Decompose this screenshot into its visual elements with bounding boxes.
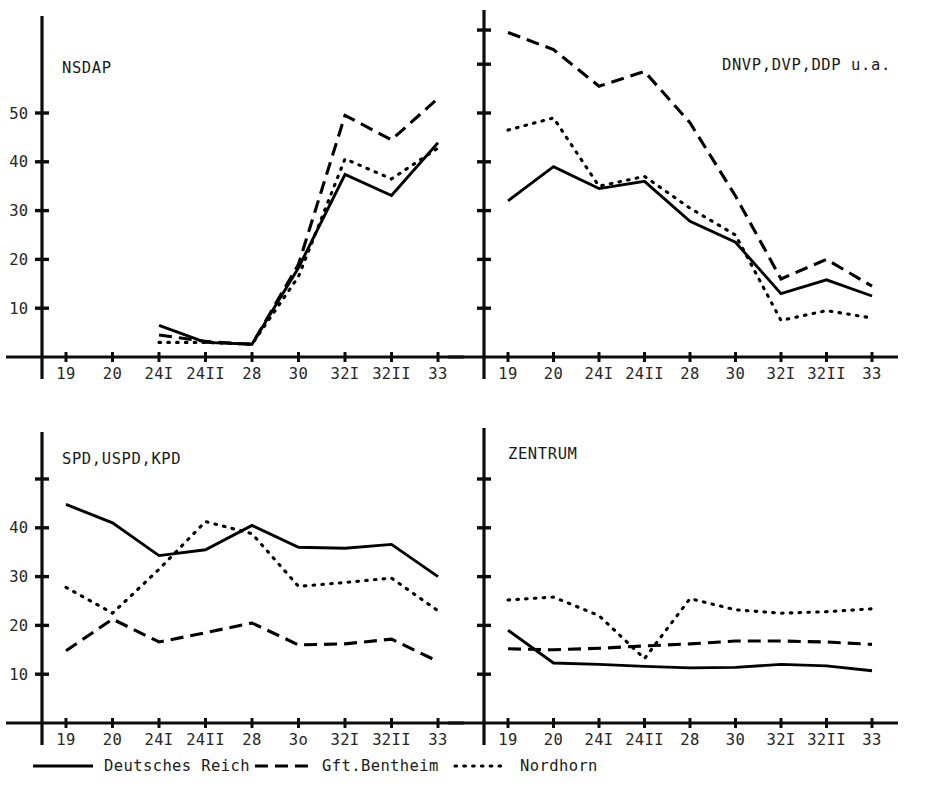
x-tick-label-top-left-0: 19 [56,365,75,383]
series-bottom-right-dashed [508,641,872,650]
legend-label-1: Deutsches Reich [104,757,250,775]
x-tick-label-top-left-1: 20 [103,365,122,383]
y-tick-label-top-left-3: 40 [9,153,28,171]
x-tick-label-top-left-3: 24II [186,365,225,383]
series-top-left-dotted [159,148,438,344]
x-tick-label-top-right-1: 20 [544,365,563,383]
y-tick-label-top-left-1: 20 [9,251,28,269]
panel-title-top-right: DNVP,DVP,DDP u.a. [722,56,891,74]
x-tick-label-bottom-left-4: 28 [242,731,261,749]
y-tick-label-top-left-2: 30 [9,202,28,220]
x-tick-label-bottom-left-0: 19 [56,731,75,749]
y-tick-label-bottom-left-2: 30 [9,568,28,586]
x-tick-label-top-left-4: 28 [242,365,261,383]
panel-title-top-left: NSDAP [62,59,112,77]
y-tick-label-bottom-left-0: 10 [9,666,28,684]
chart-canvas: 1020304050192024I24II283032I32II33NSDAP1… [0,0,925,797]
x-tick-label-top-right-7: 32II [807,365,846,383]
x-tick-label-bottom-right-4: 28 [680,731,699,749]
x-tick-label-bottom-right-5: 30 [726,731,745,749]
x-tick-label-bottom-left-2: 24I [145,731,174,749]
x-tick-label-top-left-7: 32II [372,365,411,383]
series-top-right-solid [508,167,872,296]
series-bottom-left-dotted [66,522,438,614]
x-tick-label-bottom-right-7: 32II [807,731,846,749]
y-tick-label-bottom-left-3: 40 [9,519,28,537]
x-tick-label-bottom-right-2: 24I [585,731,614,749]
x-tick-label-bottom-right-6: 32I [767,731,796,749]
panel-title-bottom-left: SPD,USPD,KPD [62,450,181,468]
panel-title-bottom-right: ZENTRUM [508,445,578,463]
x-tick-label-top-right-0: 19 [498,365,517,383]
x-tick-label-top-left-2: 24I [145,365,174,383]
x-tick-label-top-right-3: 24II [625,365,664,383]
y-tick-label-bottom-left-1: 20 [9,617,28,635]
panel-top-right: 192024I24II283032I32II33DNVP,DVP,DDP u.a… [448,10,898,383]
x-tick-label-bottom-right-1: 20 [544,731,563,749]
y-tick-label-top-left-0: 10 [9,300,28,318]
x-tick-label-bottom-left-8: 33 [428,731,447,749]
y-tick-label-top-left-4: 50 [9,105,28,123]
x-tick-label-top-right-5: 30 [726,365,745,383]
panel-bottom-left: 10203040192024I24II283o32I32II33SPD,USPD… [6,432,464,749]
x-tick-label-top-right-2: 24I [585,365,614,383]
x-tick-label-bottom-right-8: 33 [862,731,881,749]
x-tick-label-bottom-left-6: 32I [331,731,360,749]
x-tick-label-bottom-left-5: 3o [289,731,308,749]
series-top-right-dotted [508,118,872,321]
x-tick-label-bottom-left-1: 20 [103,731,122,749]
x-tick-label-top-left-8: 33 [428,365,447,383]
x-tick-label-bottom-left-7: 32II [372,731,411,749]
x-tick-label-top-right-8: 33 [862,365,881,383]
x-tick-label-top-left-6: 32I [331,365,360,383]
legend-label-3: Nordhorn [520,757,598,775]
x-tick-label-top-right-6: 32I [767,365,796,383]
series-bottom-left-dashed [66,619,438,661]
series-top-left-solid [159,143,438,344]
series-bottom-right-dotted [508,597,872,659]
chart-legend: Deutsches ReichGft.BentheimNordhorn [33,757,598,775]
x-tick-label-top-right-4: 28 [680,365,699,383]
series-bottom-left-solid [66,504,438,576]
x-tick-label-top-left-5: 30 [289,365,308,383]
x-tick-label-bottom-right-0: 19 [498,731,517,749]
x-tick-label-bottom-left-3: 24II [186,731,225,749]
panel-top-left: 1020304050192024I24II283032I32II33NSDAP [6,16,464,383]
series-top-left-dashed [159,98,438,344]
x-tick-label-bottom-right-3: 24II [625,731,664,749]
legend-label-2: Gft.Bentheim [322,757,439,775]
panel-bottom-right: 192024I24II283032I32II33ZENTRUM [448,428,898,749]
four-panel-line-chart-figure: 1020304050192024I24II283032I32II33NSDAP1… [0,0,925,797]
series-bottom-right-solid [508,630,872,671]
